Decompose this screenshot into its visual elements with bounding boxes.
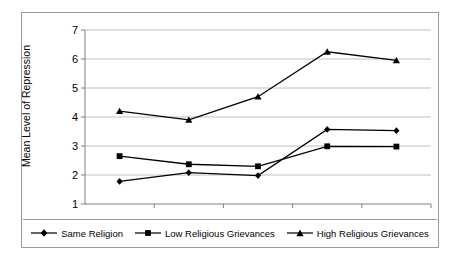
y-tick-label-3: 3 [72, 140, 78, 152]
marker-1-0 [117, 153, 123, 159]
y-tick-label-7: 7 [72, 26, 78, 36]
marker-1-4 [394, 144, 400, 150]
chart-frame: Mean Level of Repression 1234567 1996 19… [21, 12, 439, 248]
legend-item-low-religious-grievances: Low Religious Grievances [135, 227, 275, 239]
marker-1-1 [186, 161, 192, 167]
legend-label-same-religion: Same Religion [61, 228, 123, 239]
triangle-marker-icon [287, 227, 313, 239]
y-axis-title-text: Mean Level of Repression [20, 31, 32, 181]
y-tick-label-1: 1 [72, 198, 78, 210]
legend-label-low-religious-grievances: Low Religious Grievances [165, 228, 275, 239]
marker-0-3 [324, 126, 330, 133]
y-tick-label-2: 2 [72, 169, 78, 181]
marker-2-2 [254, 93, 261, 99]
legend-item-same-religion: Same Religion [31, 227, 123, 239]
square-marker-icon [135, 227, 161, 239]
marker-0-2 [255, 172, 261, 179]
marker-1-3 [324, 143, 330, 149]
plot-area: 1234567 1996 1997 1998 1999 2000 [63, 26, 433, 205]
series-line-2 [120, 52, 397, 120]
y-tick-label-4: 4 [72, 111, 78, 123]
marker-0-4 [393, 127, 399, 134]
marker-1-2 [255, 163, 261, 169]
y-tick-label-6: 6 [72, 53, 78, 65]
series-line-1 [120, 146, 397, 166]
legend-item-high-religious-grievances: High Religious Grievances [287, 227, 429, 239]
line-chart-svg: 1234567 [63, 26, 433, 226]
diamond-marker-icon [31, 227, 57, 239]
marker-0-0 [117, 178, 123, 185]
legend-label-high-religious-grievances: High Religious Grievances [317, 228, 429, 239]
chart-figure: Mean Level of Repression 1234567 1996 19… [0, 0, 457, 260]
y-axis-title: Mean Level of Repression [20, 0, 34, 31]
y-tick-label-5: 5 [72, 82, 78, 94]
chart-legend: Same Religion Low Religious Grievances H… [23, 219, 437, 246]
